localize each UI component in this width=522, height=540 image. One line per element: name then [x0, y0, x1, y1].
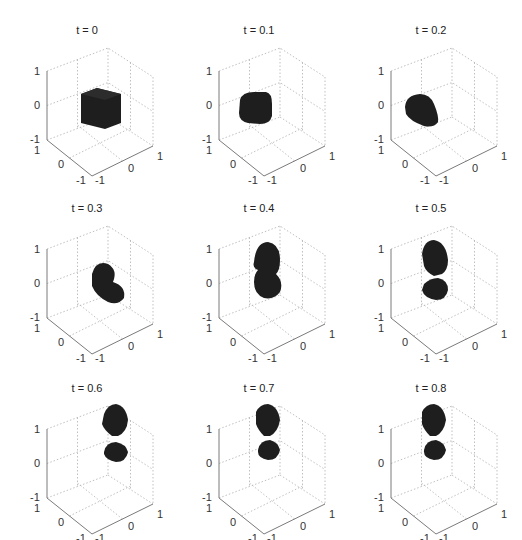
x-tick: 0	[472, 520, 478, 532]
x-tick: 0	[128, 520, 134, 532]
y-tick: 1	[34, 502, 40, 514]
axes-3d: 10-110-1-101	[0, 178, 174, 358]
z-tick: 1	[206, 243, 212, 255]
isosurface-shape	[422, 240, 448, 300]
y-tick: -1	[248, 532, 258, 540]
x-tick: 1	[501, 508, 507, 520]
subplot-0-4: t = 0.410-110-1-101	[172, 178, 346, 358]
subplot-0-5: t = 0.510-110-1-101	[344, 178, 518, 358]
z-tick: 1	[34, 423, 40, 435]
x-tick: 0	[128, 340, 134, 352]
isosurface-shape	[254, 242, 282, 298]
isosurface-shape	[422, 404, 446, 460]
axes-3d: 10-110-1-101	[344, 178, 518, 358]
x-tick: 1	[329, 328, 335, 340]
y-tick: 0	[402, 516, 408, 528]
x-tick: -1	[95, 532, 105, 540]
y-tick: 0	[230, 158, 236, 170]
subplot-0-7: t = 0.710-110-1-101	[172, 358, 346, 538]
y-tick: -1	[76, 532, 86, 540]
x-tick: 0	[472, 340, 478, 352]
z-tick: 1	[378, 423, 384, 435]
axes-3d: 10-110-1-101	[344, 0, 518, 180]
y-tick: 1	[378, 322, 384, 334]
x-tick: 0	[472, 162, 478, 174]
subplot-0-3: t = 0.310-110-1-101	[0, 178, 174, 358]
z-tick: 0	[34, 99, 40, 111]
isosurface-shape	[81, 88, 121, 129]
axes-3d: 10-110-1-101	[172, 178, 346, 358]
y-tick: 0	[230, 336, 236, 348]
subplot-0: t = 010-110-1-101	[0, 0, 174, 180]
y-tick: 0	[58, 158, 64, 170]
y-tick: 1	[34, 144, 40, 156]
y-tick: 1	[378, 502, 384, 514]
isosurface-shape	[239, 92, 272, 124]
y-tick: 0	[230, 516, 236, 528]
isosurface-shape	[102, 404, 128, 462]
x-tick: 1	[329, 150, 335, 162]
subplot-0-8: t = 0.810-110-1-101	[344, 358, 518, 538]
axes-3d: 10-110-1-101	[172, 358, 346, 538]
y-tick: 0	[58, 516, 64, 528]
y-tick: 1	[34, 322, 40, 334]
z-tick: 0	[378, 457, 384, 469]
z-tick: 1	[206, 423, 212, 435]
z-tick: 1	[378, 65, 384, 77]
x-tick: 1	[157, 150, 163, 162]
isosurface-shape	[92, 263, 124, 303]
x-tick: 1	[157, 508, 163, 520]
z-tick: 0	[378, 99, 384, 111]
x-tick: 1	[329, 508, 335, 520]
x-tick: 0	[300, 340, 306, 352]
z-tick: 0	[378, 277, 384, 289]
y-tick: 1	[206, 322, 212, 334]
axes-3d: 10-110-1-101	[0, 0, 174, 180]
z-tick: 1	[378, 243, 384, 255]
y-tick: 0	[402, 336, 408, 348]
subplot-0-1: t = 0.110-110-1-101	[172, 0, 346, 180]
z-tick: 0	[34, 457, 40, 469]
z-tick: 0	[34, 277, 40, 289]
z-tick: 1	[206, 65, 212, 77]
y-tick: 0	[58, 336, 64, 348]
x-tick: 1	[501, 150, 507, 162]
axes-3d: 10-110-1-101	[0, 358, 174, 538]
isosurface-shape	[405, 94, 438, 127]
subplot-0-6: t = 0.610-110-1-101	[0, 358, 174, 538]
x-tick: -1	[439, 532, 449, 540]
isosurface-shape	[256, 404, 280, 460]
z-tick: 1	[34, 65, 40, 77]
axes-3d: 10-110-1-101	[172, 0, 346, 180]
figure-grid: t = 010-110-1-101t = 0.110-110-1-101t = …	[0, 0, 522, 540]
z-tick: 1	[34, 243, 40, 255]
x-tick: 1	[501, 328, 507, 340]
z-tick: 0	[206, 99, 212, 111]
y-tick: 1	[378, 144, 384, 156]
y-tick: 0	[402, 158, 408, 170]
x-tick: 0	[128, 162, 134, 174]
y-tick: 1	[206, 144, 212, 156]
y-tick: 1	[206, 502, 212, 514]
y-tick: -1	[420, 532, 430, 540]
x-tick: 0	[300, 162, 306, 174]
x-tick: -1	[267, 532, 277, 540]
axes-3d: 10-110-1-101	[344, 358, 518, 538]
subplot-0-2: t = 0.210-110-1-101	[344, 0, 518, 180]
z-tick: 0	[206, 277, 212, 289]
z-tick: 0	[206, 457, 212, 469]
x-tick: 0	[300, 520, 306, 532]
x-tick: 1	[157, 328, 163, 340]
